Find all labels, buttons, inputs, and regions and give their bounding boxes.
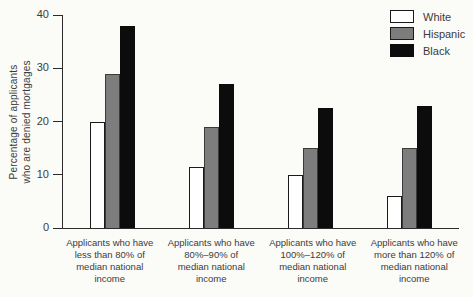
legend: WhiteHispanicBlack (390, 10, 465, 57)
bar-hispanic-0 (105, 74, 120, 228)
bar-white-0 (90, 122, 105, 229)
bar-white-3 (387, 196, 402, 228)
legend-label-black: Black (423, 45, 450, 57)
y-tick-40 (53, 15, 63, 16)
y-axis-title: Percentage of applicants who are denied … (7, 38, 33, 206)
bar-white-2 (288, 175, 303, 228)
y-tick-label-20: 20 (37, 115, 49, 127)
bar-hispanic-3 (402, 148, 417, 228)
y-tick-20 (53, 121, 63, 122)
bar-chart: Percentage of applicants who are denied … (0, 0, 473, 297)
legend-item-hispanic: Hispanic (390, 27, 465, 40)
y-tick-30 (53, 68, 63, 69)
y-tick-10 (53, 174, 63, 175)
y-axis-title-line2: who are denied mortgages (20, 38, 33, 206)
y-tick-label-30: 30 (37, 62, 49, 74)
y-tick-label-10: 10 (37, 168, 49, 180)
bar-group-0 (90, 15, 135, 228)
legend-swatch-hispanic (390, 27, 414, 40)
x-axis-labels: Applicants who have less than 80% of med… (59, 237, 465, 285)
bar-group-2 (288, 15, 333, 228)
legend-swatch-white (390, 10, 414, 23)
bar-hispanic-1 (204, 127, 219, 228)
legend-swatch-black (390, 44, 414, 57)
legend-label-white: White (423, 11, 451, 23)
legend-label-hispanic: Hispanic (423, 28, 465, 40)
y-tick-label-40: 40 (37, 8, 49, 20)
bar-hispanic-2 (303, 148, 318, 228)
bar-black-1 (219, 84, 234, 228)
x-category-label-1: Applicants who have 80%–90% of median na… (161, 237, 263, 285)
x-category-label-2: Applicants who have 100%–120% of median … (262, 237, 364, 285)
y-tick-0 (53, 228, 63, 229)
bar-white-1 (189, 167, 204, 228)
bar-group-1 (189, 15, 234, 228)
x-category-label-0: Applicants who have less than 80% of med… (59, 237, 161, 285)
legend-item-white: White (390, 10, 465, 23)
bar-black-0 (120, 26, 135, 228)
x-category-label-3: Applicants who have more than 120% of me… (364, 237, 466, 285)
y-tick-label-0: 0 (43, 221, 49, 233)
legend-item-black: Black (390, 44, 465, 57)
y-axis-title-line1: Percentage of applicants (7, 38, 20, 206)
bar-black-3 (417, 106, 432, 228)
bar-black-2 (318, 108, 333, 228)
